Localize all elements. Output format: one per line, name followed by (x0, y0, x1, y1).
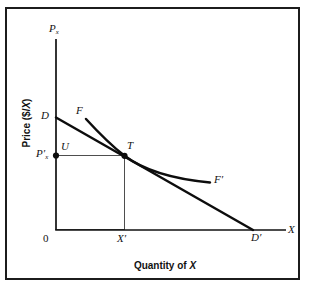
y-axis-title: Price ($/X) (22, 79, 32, 167)
x-axis-tip-label: X (288, 224, 295, 235)
origin-label: 0 (43, 233, 49, 244)
x-axis-title: Quantity of X (110, 261, 220, 271)
figure-container: Px X 0 D D′ F F′ T U P′x X′ Price ($/X) … (0, 0, 311, 290)
demand-end-label: D′ (251, 232, 261, 243)
y-axis-tip-label: Px (49, 23, 59, 34)
demand-curve-DDprime (56, 118, 253, 231)
firm-curve-start-label: F (76, 105, 83, 116)
demand-start-label: D (41, 110, 49, 121)
firm-curve-end-label: F′ (214, 174, 223, 185)
corner-point-label: U (61, 141, 69, 152)
tangency-point-label: T (127, 140, 133, 151)
firm-demand-curve-FFprime (86, 119, 210, 183)
tangency-point-marker (121, 153, 127, 159)
quantity-level-label: X′ (117, 233, 126, 244)
plot-area (0, 0, 311, 290)
price-level-label: P′x (36, 148, 48, 159)
price-axis-point-marker (53, 152, 59, 158)
